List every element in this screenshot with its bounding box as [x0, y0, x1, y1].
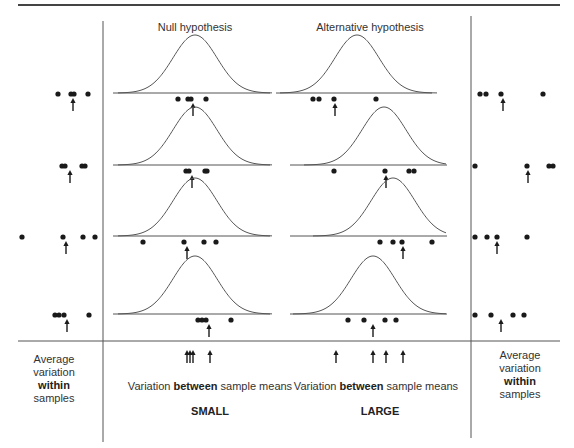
alt-mean-arrow-icon [400, 246, 405, 259]
alt-sample-dot [331, 96, 336, 101]
alt-summary-arrow-icon [383, 350, 388, 363]
null-summary-arrow-icon [187, 350, 192, 363]
bottom-mean-arrows [184, 350, 405, 363]
null-summary-arrow-icon [207, 350, 212, 363]
alt-sample-dot [382, 168, 387, 173]
sample-row-1 [55, 35, 545, 116]
left-sample-dot [61, 312, 66, 317]
null-sample-dot [181, 239, 186, 244]
alt-distribution-curve [304, 107, 446, 165]
null-sample-dot [201, 239, 206, 244]
sample-row-2 [59, 107, 555, 188]
left-within-line-1: Average [14, 353, 94, 366]
null-summary-arrow-icon [184, 350, 189, 363]
null-distribution-curve [118, 178, 272, 236]
arrow-head-icon [525, 170, 530, 175]
arrow-head-icon [70, 98, 75, 103]
right-within-line-2: variation [480, 362, 560, 375]
null-sample-dot [203, 317, 208, 322]
arrow-head-icon [370, 350, 375, 355]
left-sample-dot [80, 234, 85, 239]
left-mean-arrow-icon [67, 170, 72, 183]
null-between-caption: Variation between sample means [120, 380, 300, 393]
right-mean-arrow-icon [498, 319, 503, 332]
arrow-head-icon [333, 350, 338, 355]
right-within-line-3: within [480, 375, 560, 388]
sample-row-4 [52, 256, 526, 337]
right-within-label: Average variation within samples [480, 349, 560, 401]
alt-sample-dot [406, 168, 411, 173]
alt-sample-dot [429, 239, 434, 244]
alt-sample-dot [361, 317, 366, 322]
sample-row-3 [19, 178, 529, 259]
null-sample-dot [140, 239, 145, 244]
null-mean-arrow-icon [189, 175, 194, 188]
alt-between-caption: Variation between sample means [286, 380, 466, 393]
right-mean-arrow-icon [494, 241, 499, 254]
right-sample-dot [472, 234, 477, 239]
alt-sample-dot [377, 239, 382, 244]
right-within-line-1: Average [480, 349, 560, 362]
alt-summary-arrow-icon [400, 350, 405, 363]
null-mean-arrow-icon [184, 246, 189, 259]
alt-sample-dot [331, 168, 336, 173]
right-sample-dot [472, 163, 477, 168]
left-within-line-2: variation [14, 366, 94, 379]
alt-sample-dot [399, 239, 404, 244]
right-sample-dot [477, 91, 482, 96]
alt-sample-dot [345, 317, 350, 322]
alt-distribution-curve [280, 35, 437, 93]
null-sample-dot [203, 96, 208, 101]
null-mean-arrow-icon [206, 324, 211, 337]
left-within-line-4: samples [14, 392, 94, 405]
right-sample-dot [524, 234, 529, 239]
arrow-head-icon [400, 246, 405, 251]
alt-summary-arrow-icon [370, 350, 375, 363]
alt-sample-dot [316, 96, 321, 101]
left-sample-dot [92, 234, 97, 239]
right-within-line-4: samples [480, 388, 560, 401]
null-size-label: SMALL [160, 405, 260, 418]
right-sample-dot [510, 312, 515, 317]
arrow-head-icon [498, 319, 503, 324]
arrow-head-icon [63, 241, 68, 246]
right-sample-dot [483, 91, 488, 96]
alt-size-label: LARGE [330, 405, 430, 418]
arrow-head-icon [206, 324, 211, 329]
arrow-head-icon [207, 350, 212, 355]
null-mean-arrow-icon [190, 103, 195, 116]
alt-sample-dot [382, 317, 387, 322]
alt-sample-dot [310, 96, 315, 101]
alternative-hypothesis-header: Alternative hypothesis [295, 21, 445, 34]
left-sample-dot [62, 163, 67, 168]
null-hypothesis-header: Null hypothesis [120, 21, 270, 34]
null-summary-arrow-icon [190, 350, 195, 363]
alt-sample-dot [390, 239, 395, 244]
arrow-head-icon [332, 103, 337, 108]
alt-mean-arrow-icon [332, 103, 337, 116]
null-sample-dot [213, 239, 218, 244]
alt-sample-dot [411, 168, 416, 173]
arrow-head-icon [494, 241, 499, 246]
null-sample-dot [186, 168, 191, 173]
alt-distribution-curve [293, 256, 446, 314]
null-distribution-curve [118, 256, 272, 314]
null-sample-dot [204, 168, 209, 173]
left-sample-dot [71, 91, 76, 96]
left-sample-dot [19, 234, 24, 239]
right-sample-dot [488, 312, 493, 317]
sample-rows [19, 35, 555, 337]
frame-lines [18, 5, 560, 442]
right-sample-dot [550, 163, 555, 168]
right-mean-arrow-icon [525, 170, 530, 183]
left-sample-dot [56, 312, 61, 317]
left-within-line-3: within [14, 379, 94, 392]
left-sample-dot [60, 234, 65, 239]
left-mean-arrow-icon [63, 241, 68, 254]
arrow-head-icon [500, 98, 505, 103]
right-sample-dot [484, 234, 489, 239]
alt-sample-dot [373, 96, 378, 101]
arrow-head-icon [64, 319, 69, 324]
arrow-head-icon [400, 350, 405, 355]
null-sample-dot [188, 96, 193, 101]
